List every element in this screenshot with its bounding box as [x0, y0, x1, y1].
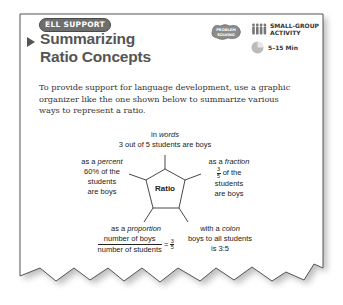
document-page: ELL SUPPORT Summarizing Ratio Concepts P…: [0, 0, 343, 305]
activity-line-2: ACTIVITY: [270, 29, 319, 36]
svg-text:SOLVING: SOLVING: [217, 33, 235, 37]
proportion-fraction: number of boysnumber of students: [98, 234, 162, 255]
activity-line-1: SMALL-GROUP: [270, 22, 319, 29]
group-people-icon: [251, 23, 267, 35]
title-line-2: Ratio Concepts: [40, 48, 151, 66]
svg-text:PROBLEM: PROBLEM: [216, 28, 236, 32]
words-label: in words 3 out of 5 students are boys: [100, 130, 230, 150]
activity-type-label: SMALL-GROUP ACTIVITY: [270, 22, 319, 36]
percent-label: as a percent 60% of the students are boy…: [74, 157, 130, 197]
problem-solving-icon: PROBLEM SOLVING: [211, 24, 241, 40]
time-label: 5–15 Min: [268, 44, 298, 51]
title-line-1: Summarizing: [40, 30, 151, 48]
play-arrow-icon: [27, 37, 35, 47]
clock-icon: [251, 41, 264, 54]
page-title: Summarizing Ratio Concepts: [40, 30, 151, 66]
ratio-center-label: Ratio: [150, 184, 180, 193]
fraction-label: as a fraction 35 of the students are boy…: [199, 157, 259, 199]
fraction-3-5-result: 35: [170, 239, 174, 251]
intro-paragraph: To provide support for language developm…: [39, 82, 301, 117]
colon-label: with a colon boys to all students is 3:5: [178, 224, 262, 254]
